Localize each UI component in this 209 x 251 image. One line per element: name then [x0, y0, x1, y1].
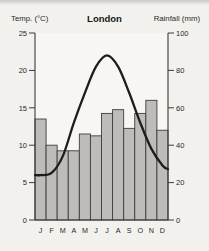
right-tick-label-80: 80	[176, 66, 184, 75]
month-label-O-10: O	[137, 226, 143, 235]
left-tick-label-0: 0	[23, 216, 27, 225]
month-label-S-9: S	[127, 226, 132, 235]
rainfall-bar-J-6	[90, 136, 101, 220]
month-label-M-3: M	[60, 226, 66, 235]
rainfall-bar-F-2	[46, 145, 57, 220]
rainfall-bar-J-1	[35, 119, 46, 220]
month-label-M-5: M	[82, 226, 88, 235]
rainfall-bar-S-9	[124, 128, 135, 220]
right-tick-label-20: 20	[176, 178, 184, 187]
rainfall-bar-N-11	[146, 100, 157, 220]
month-label-A-4: A	[71, 226, 76, 235]
month-label-J-7: J	[105, 226, 109, 235]
month-label-J-6: J	[94, 226, 98, 235]
month-label-F-2: F	[49, 226, 54, 235]
right-tick-label-40: 40	[176, 141, 184, 150]
right-tick-label-0: 0	[176, 216, 180, 225]
climate-plot: 0510152025020406080100JFMAMJJASOND	[0, 0, 209, 251]
month-label-A-8: A	[116, 226, 121, 235]
month-label-N-11: N	[149, 226, 154, 235]
right-tick-label-100: 100	[176, 29, 189, 38]
rainfall-bar-D-12	[157, 130, 168, 220]
left-tick-label-10: 10	[19, 141, 27, 150]
left-tick-label-15: 15	[19, 104, 27, 113]
left-tick-label-5: 5	[23, 178, 27, 187]
rainfall-bar-M-3	[57, 151, 68, 220]
month-label-D-12: D	[160, 226, 165, 235]
rainfall-bar-M-5	[79, 134, 90, 220]
left-tick-label-25: 25	[19, 29, 27, 38]
rainfall-bar-J-7	[102, 113, 113, 220]
right-tick-label-60: 60	[176, 104, 184, 113]
month-label-J-1: J	[39, 226, 43, 235]
rainfall-bar-A-8	[113, 110, 124, 220]
climate-chart-page: { "header": { "left_axis_title": "Temp. …	[0, 0, 209, 251]
rainfall-bar-O-10	[135, 113, 146, 220]
rainfall-bar-A-4	[68, 151, 79, 220]
left-tick-label-20: 20	[19, 66, 27, 75]
